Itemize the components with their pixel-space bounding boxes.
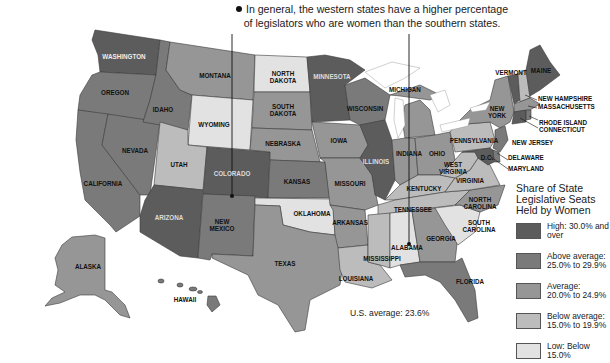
label-rhode-island: RHODE ISLAND (539, 119, 587, 126)
label-utah: UTAH (170, 161, 187, 168)
state-connecticut (512, 110, 526, 124)
label-west-virginia-2: VIRGINIA (439, 168, 467, 175)
label-alaska: ALASKA (75, 263, 102, 270)
label-louisiana: LOUISIANA (339, 275, 374, 282)
label-south-carolina-1: SOUTH (468, 219, 490, 226)
label-new-hampshire: NEW HAMPSHIRE (538, 95, 592, 102)
legend-item-high: High: 30.0% andover (516, 222, 610, 246)
label-georgia: GEORGIA (426, 235, 456, 242)
label-new-york-1: NEW (490, 105, 505, 112)
label-west-virginia-1: WEST (444, 161, 462, 168)
label-kentucky: KENTUCKY (407, 185, 443, 192)
legend-swatch-below-average (516, 313, 541, 329)
label-delaware: DELAWARE (508, 154, 544, 161)
label-illinois: ILLINOIS (363, 158, 390, 165)
label-california: CALIFORNIA (84, 180, 123, 187)
label-oregon: OREGON (101, 89, 129, 96)
label-florida: FLORIDA (456, 278, 484, 285)
label-new-mexico-2: MEXICO (210, 225, 235, 232)
legend: Share of State Legislative Seats Held by… (516, 183, 610, 363)
label-texas: TEXAS (275, 260, 296, 267)
label-north-dakota-2: DAKOTA (270, 77, 297, 84)
legend-label-average: Average:20.0% to 24.9% (547, 282, 606, 300)
label-nebraska: NEBRASKA (265, 140, 301, 147)
label-idaho: IDAHO (153, 106, 173, 113)
label-pennsylvania: PENNSYLVANIA (450, 137, 499, 144)
label-michigan: MICHIGAN (389, 86, 421, 93)
label-alabama: ALABAMA (391, 244, 423, 251)
pointer-dot-colorado (230, 194, 234, 198)
label-indiana: INDIANA (396, 150, 423, 157)
label-south-dakota-2: DAKOTA (270, 110, 297, 117)
legend-label-above-average: Above average:25.0% to 29.9% (547, 252, 606, 270)
legend-swatch-low (516, 343, 541, 359)
label-oklahoma: OKLAHOMA (293, 210, 331, 217)
callout-line-2: of legislators who are women than the so… (222, 16, 522, 30)
label-montana: MONTANA (199, 72, 231, 79)
label-hawaii: HAWAII (174, 296, 197, 303)
label-wisconsin: WISCONSIN (347, 105, 384, 112)
label-maryland: MARYLAND (508, 165, 544, 172)
label-ohio: OHIO (429, 150, 445, 157)
legend-item-above-average: Above average:25.0% to 29.9% (516, 252, 610, 276)
legend-item-average: Average:20.0% to 24.9% (516, 282, 610, 306)
legend-item-below-average: Below average:15.0% to 19.9% (516, 312, 610, 336)
label-connecticut: CONNECTICUT (539, 126, 585, 133)
callout-note: In general, the western states have a hi… (222, 2, 522, 30)
label-new-jersey: NEW JERSEY (512, 139, 554, 146)
label-tennessee: TENNESSEE (394, 206, 432, 213)
label-dc: D.C. (481, 154, 494, 161)
label-south-dakota-1: SOUTH (272, 103, 294, 110)
label-arizona: ARIZONA (155, 214, 184, 221)
label-arkansas: ARKANSAS (332, 219, 368, 226)
legend-swatch-average (516, 283, 541, 299)
state-rhode-island (526, 110, 531, 120)
label-vermont: VERMONT (495, 69, 527, 76)
label-colorado: COLORADO (214, 170, 251, 177)
label-wyoming: WYOMING (198, 121, 230, 128)
label-north-carolina-1: NORTH (469, 196, 492, 203)
label-missouri: MISSOURI (334, 180, 365, 187)
label-virginia: VIRGINIA (456, 177, 484, 184)
legend-swatch-high (516, 223, 541, 239)
legend-label-below-average: Below average:15.0% to 19.9% (547, 312, 606, 330)
label-new-mexico-1: NEW (215, 218, 230, 225)
label-north-carolina-2: CAROLINA (463, 203, 497, 210)
legend-item-low: Low: Below15.0% (516, 342, 610, 363)
label-washington: WASHINGTON (102, 53, 146, 60)
legend-title: Share of State Legislative Seats Held by… (516, 183, 610, 216)
label-massachusetts: MASSACHUSETTS (538, 103, 595, 110)
us-average-note: U.S. average: 23.6% (350, 308, 429, 318)
label-maine: MAINE (531, 67, 551, 74)
legend-swatch-above-average (516, 253, 541, 269)
callout-line-1: In general, the western states have a hi… (246, 3, 508, 15)
bullet-icon (236, 6, 242, 12)
label-new-york-2: YORK (488, 112, 507, 119)
label-minnesota: MINNESOTA (313, 73, 351, 80)
label-mississippi: MISSISSIPPI (363, 255, 401, 262)
legend-label-high: High: 30.0% andover (547, 222, 609, 240)
state-alaska (45, 235, 130, 318)
label-kansas: KANSAS (284, 178, 311, 185)
label-nevada: NEVADA (122, 147, 149, 154)
state-arizona (140, 185, 203, 258)
label-south-carolina-2: CAROLINA (462, 226, 496, 233)
legend-label-low: Low: Below15.0% (547, 342, 590, 360)
label-iowa: IOWA (331, 137, 348, 144)
legend-title-line-3: Held by Women (516, 205, 610, 216)
label-north-dakota-1: NORTH (272, 70, 295, 77)
